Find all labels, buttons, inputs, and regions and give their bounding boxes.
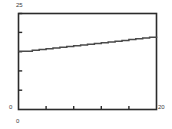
x-axis-min-label: 0 xyxy=(16,118,19,125)
y-axis-min-label: 0 xyxy=(9,104,12,111)
y-axis-max-label: 25 xyxy=(16,2,22,9)
data-series-line xyxy=(19,37,157,52)
line-chart-plot xyxy=(0,0,172,129)
x-axis-max-label: 20 xyxy=(158,104,164,111)
plot-frame xyxy=(19,14,157,110)
chart-container: 25 0 0 20 xyxy=(0,0,172,129)
